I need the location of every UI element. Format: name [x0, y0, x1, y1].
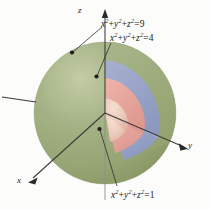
equation-label-outer: x2+y2+z2=9	[101, 19, 144, 29]
x-axis-label: x	[17, 175, 21, 185]
equation-label-inner: x2+y2+z2=1	[111, 190, 154, 200]
x-axis-arrowhead	[28, 177, 38, 184]
y-axis-label: y	[188, 140, 192, 150]
figure-canvas	[0, 0, 210, 209]
sphere-cutaway-figure: x2+y2+z2=9 x2+y2+z2=4 x2+y2+z2=1 z y x	[0, 0, 210, 209]
equation-label-middle: x2+y2+z2=4	[110, 33, 153, 43]
z-axis-label: z	[78, 5, 82, 15]
leader-dot-middle	[94, 74, 98, 78]
eq-outer-value: 9	[140, 19, 145, 29]
y-axis-arrowhead	[179, 143, 188, 151]
y-axis-negative	[2, 97, 36, 102]
leader-dot-inner	[97, 127, 101, 131]
leader-dot-outer	[70, 50, 74, 54]
eq-inner-value: 1	[150, 190, 155, 200]
eq-middle-value: 4	[149, 33, 154, 43]
